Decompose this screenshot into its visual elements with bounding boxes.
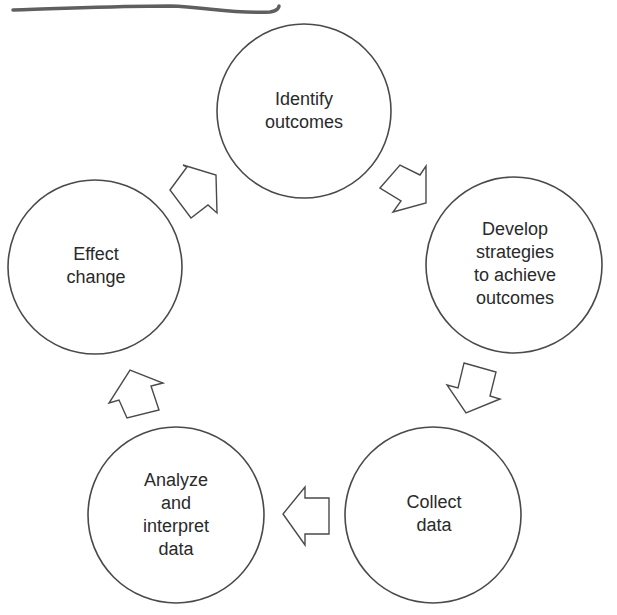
node-label-collect-data: Collect data — [359, 491, 509, 537]
pencil-underline — [13, 6, 279, 12]
arrow-up-right-icon — [109, 370, 163, 418]
arrow-left-icon — [283, 487, 329, 545]
node-label-develop-strategies: Develop strategies to achieve outcomes — [440, 218, 590, 310]
node-label-identify-outcomes: Identify outcomes — [229, 88, 379, 134]
arrow-down-left-icon — [447, 363, 500, 413]
node-label-effect-change: Effect change — [21, 243, 171, 289]
arrow-down-right-icon — [380, 165, 426, 212]
arrow-up-right-icon — [170, 165, 217, 218]
node-label-analyze-interpret-data: Analyze and interpret data — [101, 469, 251, 561]
